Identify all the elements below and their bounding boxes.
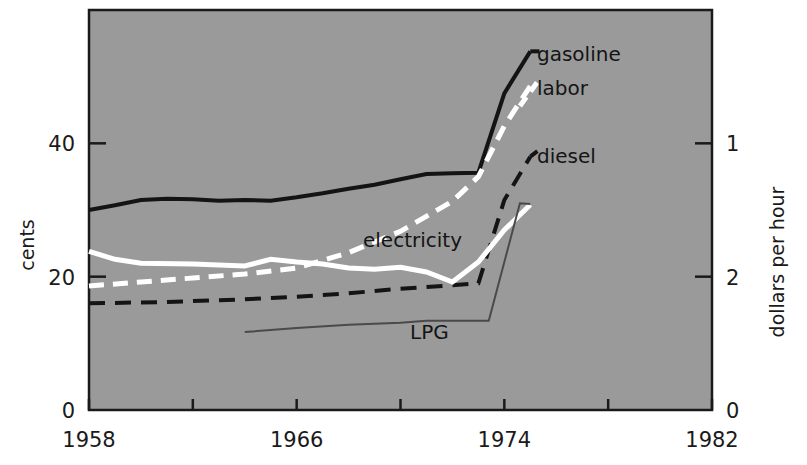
y-tick-label-left-40: 40: [48, 132, 75, 156]
line-chart-svg: 195819661974198202040120centsdollars per…: [0, 0, 807, 465]
y-axis-title-right: dollars per hour: [766, 186, 788, 337]
y-tick-label-left-20: 20: [48, 266, 75, 290]
x-tick-label-1982: 1982: [685, 428, 738, 452]
chart-figure: 195819661974198202040120centsdollars per…: [0, 0, 807, 465]
y-tick-label-left-0: 0: [62, 399, 75, 423]
series-label-diesel: diesel: [537, 144, 596, 168]
y-axis-title-left: cents: [16, 219, 38, 271]
series-label-gasoline: gasoline: [537, 42, 621, 66]
x-tick-label-1974: 1974: [478, 428, 531, 452]
x-tick-label-1966: 1966: [270, 428, 323, 452]
x-tick-label-1958: 1958: [62, 428, 115, 452]
series-label-lpg: LPG: [410, 320, 449, 344]
y-tick-label-right-2: 2: [726, 266, 739, 290]
plot-area: [89, 10, 712, 410]
y-tick-label-right-1: 1: [726, 132, 739, 156]
y-tick-label-right-0: 0: [726, 399, 739, 423]
series-label-labor: labor: [537, 76, 589, 100]
plot-background: [89, 10, 712, 410]
series-label-electricity: electricity: [363, 228, 462, 252]
